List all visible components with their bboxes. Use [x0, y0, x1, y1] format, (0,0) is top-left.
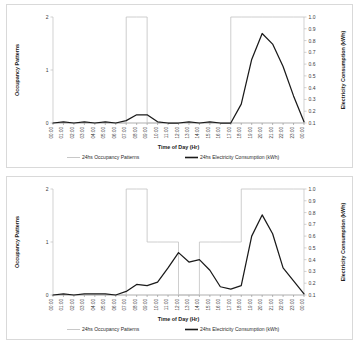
x-tick-label: 00:00	[49, 299, 54, 311]
x-tick-label: 16:00	[216, 299, 221, 311]
x-tick-label: 04:00	[91, 127, 96, 139]
chart-canvas: 0120.10.20.30.40.50.60.70.80.91.000:0001…	[7, 5, 352, 167]
y-tick-label-left: 0	[46, 120, 49, 126]
x-tick-label: 05:00	[101, 127, 106, 139]
x-tick-label: 11:00	[164, 127, 169, 139]
y-tick-label-left: 0	[46, 292, 49, 298]
x-tick-label: 19:00	[248, 299, 253, 311]
y-tick-label-right: 1.0	[309, 186, 316, 192]
x-tick-label: 08:00	[133, 299, 138, 311]
y-axis-title-right: Electricity Consumption (kWh)	[340, 31, 346, 110]
legend-label-electricity: 24hs Electricity Consumption (kWh)	[200, 326, 280, 332]
figure-sheet: 0120.10.20.30.40.50.60.70.80.91.000:0001…	[0, 0, 359, 345]
x-tick-label: 22:00	[279, 299, 284, 311]
x-tick-label: 06:00	[112, 299, 117, 311]
x-tick-label: 09:00	[143, 299, 148, 311]
y-tick-label-right: 0.5	[309, 73, 316, 79]
x-tick-label: 09:00	[143, 127, 148, 139]
x-tick-label: 17:00	[227, 299, 232, 311]
chart-canvas: 0120.10.20.30.40.50.60.70.80.91.000:0001…	[7, 177, 352, 339]
x-tick-label: 18:00	[237, 299, 242, 311]
x-tick-label: 02:00	[70, 299, 75, 311]
y-axis-title-left: Occupancy Patterns	[14, 216, 20, 268]
x-tick-label: 21:00	[269, 127, 274, 139]
series-occupancy-line	[53, 189, 304, 295]
x-tick-label: 08:00	[133, 127, 138, 139]
x-tick-label: 12:00	[175, 127, 180, 139]
x-tick-label: 04:00	[91, 299, 96, 311]
x-tick-label: 18:00	[237, 127, 242, 139]
y-tick-label-left: 2	[46, 14, 49, 20]
x-tick-label: 15:00	[206, 127, 211, 139]
x-tick-label: 13:00	[185, 299, 190, 311]
chart-panel-bottom: 0120.10.20.30.40.50.60.70.80.91.000:0001…	[6, 176, 353, 340]
x-tick-label: 16:00	[216, 127, 221, 139]
y-tick-label-left: 1	[46, 67, 49, 73]
x-axis-title: Time of Day (Hr)	[158, 316, 200, 322]
x-tick-label: 07:00	[122, 127, 127, 139]
series-occupancy-line	[53, 17, 304, 123]
plot-area-bottom: 0120.10.20.30.40.50.60.70.80.91.000:0001…	[7, 177, 352, 339]
x-tick-label: 22:00	[279, 127, 284, 139]
x-tick-label: 23:00	[290, 299, 295, 311]
x-tick-label: 10:00	[154, 299, 159, 311]
x-tick-label: 23:00	[290, 127, 295, 139]
y-tick-label-right: 0.9	[309, 26, 316, 32]
x-tick-label: 03:00	[80, 299, 85, 311]
y-tick-label-right: 0.8	[309, 38, 316, 44]
x-tick-label: 20:00	[258, 127, 263, 139]
x-axis-title: Time of Day (Hr)	[158, 144, 200, 150]
x-tick-label: 12:00	[175, 299, 180, 311]
y-tick-label-right: 0.3	[309, 268, 316, 274]
series-electricity-line	[53, 33, 304, 123]
y-tick-label-right: 0.2	[309, 280, 316, 286]
y-tick-label-right: 0.6	[309, 61, 316, 67]
x-tick-label: 20:00	[258, 299, 263, 311]
y-tick-label-left: 1	[46, 239, 49, 245]
legend-label-electricity: 24hs Electricity Consumption (kWh)	[200, 154, 280, 160]
y-tick-label-right: 0.5	[309, 245, 316, 251]
y-tick-label-right: 0.1	[309, 292, 316, 298]
x-tick-label: 21:00	[269, 299, 274, 311]
x-tick-label: 15:00	[206, 299, 211, 311]
x-tick-label: 10:00	[154, 127, 159, 139]
y-tick-label-right: 0.4	[309, 257, 316, 263]
y-axis-title-left: Occupancy Patterns	[14, 44, 20, 96]
y-tick-label-left: 2	[46, 186, 49, 192]
x-tick-label: 17:00	[227, 127, 232, 139]
x-tick-label: 06:00	[112, 127, 117, 139]
y-axis-title-right: Electricity Consumption (kWh)	[340, 203, 346, 282]
x-tick-label: 13:00	[185, 127, 190, 139]
y-tick-label-right: 0.8	[309, 210, 316, 216]
y-tick-label-right: 0.4	[309, 85, 316, 91]
y-tick-label-right: 0.7	[309, 221, 316, 227]
y-tick-label-right: 1.0	[309, 14, 316, 20]
x-tick-label: 14:00	[195, 299, 200, 311]
legend-label-occupancy: 24hs Occupancy Patterns	[82, 326, 140, 332]
x-tick-label: 05:00	[101, 299, 106, 311]
x-tick-label: 01:00	[59, 299, 64, 311]
x-tick-label: 11:00	[164, 299, 169, 311]
x-tick-label: 00:00	[300, 299, 305, 311]
y-tick-label-right: 0.3	[309, 96, 316, 102]
x-tick-label: 03:00	[80, 127, 85, 139]
x-tick-label: 01:00	[59, 127, 64, 139]
x-tick-label: 07:00	[122, 299, 127, 311]
x-tick-label: 19:00	[248, 127, 253, 139]
legend-label-occupancy: 24hs Occupancy Patterns	[82, 154, 140, 160]
y-tick-label-right: 0.9	[309, 198, 316, 204]
x-tick-label: 00:00	[300, 127, 305, 139]
x-tick-label: 00:00	[49, 127, 54, 139]
x-tick-label: 14:00	[195, 127, 200, 139]
y-tick-label-right: 0.7	[309, 49, 316, 55]
x-tick-label: 02:00	[70, 127, 75, 139]
y-tick-label-right: 0.1	[309, 120, 316, 126]
plot-area-top: 0120.10.20.30.40.50.60.70.80.91.000:0001…	[7, 5, 352, 167]
y-tick-label-right: 0.6	[309, 233, 316, 239]
y-tick-label-right: 0.2	[309, 108, 316, 114]
chart-panel-top: 0120.10.20.30.40.50.60.70.80.91.000:0001…	[6, 4, 353, 168]
